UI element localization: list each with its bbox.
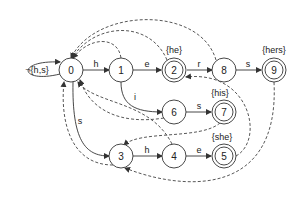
edge-1-6: [121, 82, 162, 112]
edge-label-1-2: e: [144, 59, 149, 69]
edge-label-3-4: h: [144, 145, 149, 155]
state-0: 0: [59, 58, 83, 82]
svg-text:1: 1: [118, 65, 124, 76]
svg-text:4: 4: [171, 151, 177, 162]
svg-text:3: 3: [118, 151, 124, 162]
edge-label-0-1: h: [93, 59, 98, 69]
failure-edge-4-0: [78, 82, 172, 144]
failure-edge-3-0: [63, 82, 113, 165]
svg-text:5: 5: [221, 151, 227, 162]
output-label-2: {he}: [166, 45, 182, 55]
automaton-diagram: ¬{h,s} h e r s i s s h e 0 1 2 {he} 8: [0, 0, 301, 197]
output-label-7: {his}: [211, 88, 229, 98]
state-4: 4: [162, 144, 186, 168]
failure-edge-6-0: [80, 80, 164, 120]
svg-text:9: 9: [271, 65, 277, 76]
edge-label-8-9: s: [246, 59, 251, 69]
state-3: 3: [109, 144, 133, 168]
state-2: 2: [162, 58, 186, 82]
svg-text:7: 7: [221, 107, 227, 118]
svg-text:8: 8: [221, 65, 227, 76]
svg-text:2: 2: [171, 65, 177, 76]
state-1: 1: [109, 58, 133, 82]
svg-text:0: 0: [68, 65, 74, 76]
edge-label-6-7: s: [197, 101, 202, 111]
failure-edge-9-3: [125, 82, 274, 182]
failure-edge-8-0: [71, 20, 216, 60]
edge-label-0-3: s: [78, 116, 83, 126]
svg-text:6: 6: [171, 107, 177, 118]
failure-edge-2-0: [72, 31, 167, 61]
failure-edge-1-0: [73, 42, 121, 59]
start-loop-label: ¬{h,s}: [25, 65, 48, 75]
state-7: 7: [212, 100, 236, 124]
state-8: 8: [212, 58, 236, 82]
output-label-9: {hers}: [262, 45, 286, 55]
state-5: 5: [212, 144, 236, 168]
edge-label-1-6: i: [134, 92, 136, 102]
state-6: 6: [162, 100, 186, 124]
failure-edge-7-3: [124, 123, 220, 145]
edge-label-2-8: r: [198, 59, 201, 69]
edge-label-4-5: e: [196, 145, 201, 155]
state-9: 9: [262, 58, 286, 82]
output-label-5: {she}: [212, 132, 233, 142]
